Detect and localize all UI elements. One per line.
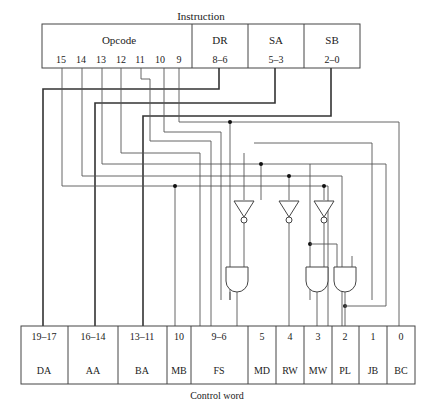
mb-label: MB xyxy=(171,365,187,376)
ba-label: BA xyxy=(135,365,150,376)
jb-label: JB xyxy=(368,365,379,376)
sa-bits: 5–3 xyxy=(269,54,284,65)
dr-label: DR xyxy=(212,34,228,46)
opcode-label: Opcode xyxy=(102,34,136,46)
md-label: MD xyxy=(254,365,270,376)
bc-bits: 0 xyxy=(399,331,404,342)
opcode-bit-9: 9 xyxy=(177,54,182,65)
inverter-gates xyxy=(234,201,334,223)
da-bits: 19–17 xyxy=(32,331,57,342)
sb-bits: 2–0 xyxy=(325,54,340,65)
fs-label: FS xyxy=(213,365,224,376)
register-address-wires xyxy=(43,68,331,326)
rw-label: RW xyxy=(282,365,298,376)
md-bits: 5 xyxy=(260,331,265,342)
pl-bits: 2 xyxy=(343,331,348,342)
pl-label: PL xyxy=(339,365,351,376)
fs-bits: 9–6 xyxy=(212,331,227,342)
instruction-decoder-diagram: Instruction Opcode DR SA SB 8–6 5–3 2–0 … xyxy=(0,0,437,419)
sb-label: SB xyxy=(325,34,338,46)
opcode-bit-15: 15 xyxy=(56,54,66,65)
opcode-bit-12: 12 xyxy=(116,54,126,65)
control-word-bits: 19–17 16–14 13–11 10 9–6 5 4 3 2 1 0 xyxy=(32,331,404,342)
instruction-title: Instruction xyxy=(177,10,225,22)
dr-bits: 8–6 xyxy=(213,54,228,65)
mw-bits: 3 xyxy=(316,331,321,342)
opcode-bit-10: 10 xyxy=(155,54,165,65)
bc-label: BC xyxy=(394,365,408,376)
rw-bits: 4 xyxy=(288,331,293,342)
opcode-bit-11: 11 xyxy=(135,54,145,65)
opcode-bit-13: 13 xyxy=(96,54,106,65)
da-label: DA xyxy=(37,365,52,376)
control-word-fields: DA AA BA MB FS MD RW MW PL JB BC xyxy=(37,365,408,376)
ba-bits: 13–11 xyxy=(130,331,155,342)
jb-bits: 1 xyxy=(371,331,376,342)
and-gates xyxy=(226,267,356,292)
mw-label: MW xyxy=(309,365,328,376)
sa-label: SA xyxy=(269,34,283,46)
opcode-bit-14: 14 xyxy=(76,54,86,65)
mb-bits: 10 xyxy=(174,331,184,342)
aa-label: AA xyxy=(86,365,101,376)
instruction-register xyxy=(42,24,360,68)
aa-bits: 16–14 xyxy=(81,331,106,342)
control-word-title: Control word xyxy=(190,390,244,401)
